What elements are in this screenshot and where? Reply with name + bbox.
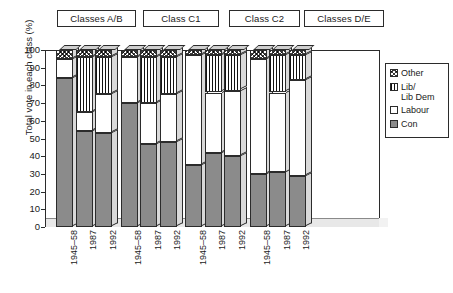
bar-segment-other[interactable] xyxy=(76,50,93,57)
chart-root: Classes A/B Class C1 Class C2 Classes D/… xyxy=(0,0,453,293)
y-tick-mark xyxy=(41,85,45,86)
bar-segment-labour[interactable] xyxy=(269,93,286,173)
bar-column[interactable] xyxy=(56,50,73,227)
y-tick-mark xyxy=(41,68,45,69)
bar-segment-con[interactable] xyxy=(250,174,267,227)
bar-segment-lib-lib-dem[interactable] xyxy=(95,57,112,94)
bar-segment-labour[interactable] xyxy=(205,93,222,153)
bar-segment-side-face xyxy=(177,90,183,141)
x-axis-tick-labels: 1945–58198719921945–58198719921945–58198… xyxy=(45,228,380,288)
bar-column[interactable] xyxy=(140,50,157,227)
bar-segment-other[interactable] xyxy=(269,50,286,55)
bar-segment-labour[interactable] xyxy=(140,103,157,144)
bar-column[interactable] xyxy=(269,50,286,227)
bar-segment-con[interactable] xyxy=(76,131,93,227)
bar-segment-lib-lib-dem[interactable] xyxy=(160,57,177,94)
bar-segment-other[interactable] xyxy=(224,50,241,55)
bar-segment-labour[interactable] xyxy=(76,112,93,131)
bar-segment-lib-lib-dem[interactable] xyxy=(289,55,306,80)
bar-column[interactable] xyxy=(121,50,138,227)
bar-segment-labour[interactable] xyxy=(250,59,267,174)
y-tick-mark xyxy=(41,156,45,157)
bar-segment-lib-lib-dem[interactable] xyxy=(76,57,93,112)
bar-column[interactable] xyxy=(289,50,306,227)
legend-label: Con xyxy=(401,119,418,129)
x-tick-label: 1987 xyxy=(88,230,98,250)
bar-segment-other[interactable] xyxy=(205,50,222,55)
bar-segment-side-face xyxy=(177,53,183,93)
bar-column[interactable] xyxy=(224,50,241,227)
bar-column[interactable] xyxy=(76,50,93,227)
y-tick-mark xyxy=(41,50,45,51)
bar-segment-labour[interactable] xyxy=(224,91,241,156)
bar-segment-other[interactable] xyxy=(56,50,73,59)
bar-segment-con[interactable] xyxy=(224,156,241,227)
legend-item-labour: Labour xyxy=(390,105,445,115)
bar-segment-other[interactable] xyxy=(95,50,112,57)
y-tick-label: 10 xyxy=(29,205,40,213)
y-tick-label: 70 xyxy=(29,99,40,107)
bar-segment-con[interactable] xyxy=(205,153,222,227)
bar-segment-other[interactable] xyxy=(121,50,138,57)
bar-column[interactable] xyxy=(205,50,222,227)
legend-label-group: Lib/ Lib Dem xyxy=(401,82,435,102)
x-tick-label: 1987 xyxy=(217,230,227,250)
bar-segment-labour[interactable] xyxy=(121,57,138,103)
bar-segment-con[interactable] xyxy=(289,176,306,227)
y-tick-label: 100 xyxy=(24,46,40,54)
legend-swatch-labour-icon xyxy=(390,106,398,114)
y-tick-label: 50 xyxy=(29,135,40,143)
legend-label: Other xyxy=(401,68,424,78)
bar-column[interactable] xyxy=(95,50,112,227)
bar-column[interactable] xyxy=(250,50,267,227)
bar-segment-con[interactable] xyxy=(269,172,286,227)
bar-segment-con[interactable] xyxy=(160,142,177,227)
y-tick-mark xyxy=(41,174,45,175)
y-tick-mark xyxy=(41,209,45,210)
legend-label: Lib/ xyxy=(401,82,416,92)
bar-segment-labour[interactable] xyxy=(95,94,112,133)
bar-segment-con[interactable] xyxy=(140,144,157,227)
x-tick-label: 1992 xyxy=(237,230,247,250)
legend-swatch-con-icon xyxy=(390,120,398,128)
bar-segment-other[interactable] xyxy=(250,50,267,59)
bar-segment-other[interactable] xyxy=(140,50,157,57)
y-tick-label: 60 xyxy=(29,117,40,125)
bar-segment-labour[interactable] xyxy=(185,55,202,165)
bar-segment-lib-lib-dem[interactable] xyxy=(224,55,241,90)
bar-segment-con[interactable] xyxy=(121,103,138,227)
legend-item-other: Other xyxy=(390,68,445,78)
bar-segment-other[interactable] xyxy=(160,50,177,57)
bar-segment-con[interactable] xyxy=(56,78,73,227)
bar-segment-lib-lib-dem[interactable] xyxy=(205,55,222,92)
y-tick-mark xyxy=(41,227,45,228)
y-tick-label: 30 xyxy=(29,170,40,178)
y-tick-mark xyxy=(41,192,45,193)
bar-column[interactable] xyxy=(185,50,202,227)
legend: Other Lib/ Lib Dem Labour Con xyxy=(385,63,449,138)
legend-item-con: Con xyxy=(390,119,445,129)
y-tick-label: 40 xyxy=(29,152,40,160)
bar-segment-labour[interactable] xyxy=(289,80,306,176)
bar-segment-lib-lib-dem[interactable] xyxy=(140,57,157,103)
bar-segment-side-face xyxy=(306,76,312,175)
x-tick-label: 1992 xyxy=(301,230,311,250)
legend-item-lib: Lib/ Lib Dem xyxy=(390,82,445,102)
x-tick-label: 1945–58 xyxy=(198,230,208,265)
bar-segment-other[interactable] xyxy=(185,50,202,55)
bar-segment-labour[interactable] xyxy=(56,59,73,78)
legend-label-line2: Lib Dem xyxy=(401,92,435,102)
bar-segment-labour[interactable] xyxy=(160,94,177,142)
bar-segment-con[interactable] xyxy=(185,165,202,227)
bar-segment-con[interactable] xyxy=(95,133,112,227)
bar-column[interactable] xyxy=(160,50,177,227)
bar-segment-side-face xyxy=(112,53,118,93)
bar-segment-side-face xyxy=(241,51,247,89)
bar-segment-lib-lib-dem[interactable] xyxy=(269,55,286,92)
bar-segment-side-face xyxy=(306,172,312,226)
bar-segment-side-face xyxy=(177,138,183,226)
y-tick-mark xyxy=(41,139,45,140)
bar-container xyxy=(45,50,380,227)
bar-segment-other[interactable] xyxy=(289,50,306,55)
x-tick-label: 1992 xyxy=(108,230,118,250)
